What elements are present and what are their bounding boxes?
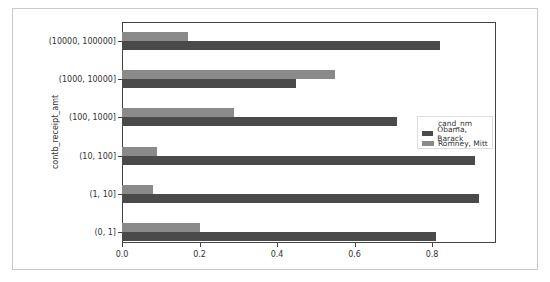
- y-tick-label: (10000, 100000]: [49, 37, 116, 46]
- x-tick: [277, 243, 278, 247]
- bar-romney: [122, 223, 200, 232]
- x-tick: [432, 243, 433, 247]
- x-tick-label: 0.6: [348, 250, 361, 259]
- bar-romney: [122, 147, 157, 156]
- bar-romney: [122, 32, 188, 41]
- legend-item-romney: Romney, Mitt: [422, 139, 492, 148]
- y-tick: [118, 79, 122, 80]
- bar-obama: [122, 79, 296, 88]
- y-tick: [118, 194, 122, 195]
- legend-swatch-romney: [422, 141, 434, 146]
- bar-obama: [122, 41, 440, 50]
- bar-romney: [122, 108, 234, 117]
- x-tick: [122, 243, 123, 247]
- x-tick-label: 0.4: [271, 250, 284, 259]
- y-tick-label: (1, 10]: [89, 190, 116, 199]
- x-tick-label: 0.2: [193, 250, 206, 259]
- bar-obama: [122, 194, 479, 203]
- y-tick-label: (0, 1]: [94, 228, 116, 237]
- y-tick-label: (1000, 10000]: [59, 75, 116, 84]
- y-tick: [118, 41, 122, 42]
- bar-obama: [122, 232, 436, 241]
- y-tick: [118, 117, 122, 118]
- y-tick: [118, 156, 122, 157]
- y-tick-label: (10, 100]: [79, 152, 116, 161]
- bar-romney: [122, 185, 153, 194]
- y-axis-label: contb_receipt_amt: [51, 95, 60, 169]
- legend: cand_nm Obama, Barack Romney, Mitt: [417, 116, 493, 149]
- legend-item-obama: Obama, Barack: [422, 129, 492, 138]
- y-tick: [118, 232, 122, 233]
- y-tick-label: (100, 1000]: [69, 113, 116, 122]
- legend-swatch-obama: [422, 131, 433, 136]
- x-tick-label: 0.0: [116, 250, 129, 259]
- x-tick-label: 0.8: [426, 250, 439, 259]
- x-tick: [200, 243, 201, 247]
- bar-romney: [122, 70, 335, 79]
- x-tick: [355, 243, 356, 247]
- bar-obama: [122, 156, 475, 165]
- bar-obama: [122, 117, 397, 126]
- legend-label-romney: Romney, Mitt: [438, 139, 488, 148]
